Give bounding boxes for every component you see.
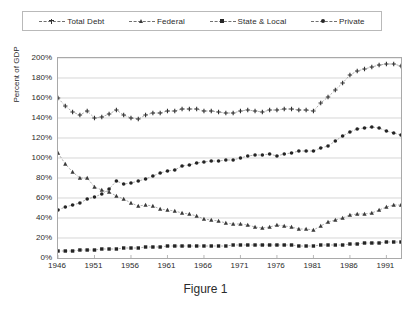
- square-marker: [297, 244, 300, 247]
- triangle-marker: [122, 197, 126, 201]
- circle-marker: [246, 154, 250, 158]
- square-marker: [341, 243, 344, 246]
- square-marker: [64, 249, 67, 252]
- triangle-marker: [275, 223, 279, 227]
- cross-marker: [253, 109, 257, 113]
- series-line: [58, 127, 401, 210]
- chart-plot-area: [57, 57, 402, 259]
- triangle-marker: [58, 151, 60, 155]
- cross-marker: [107, 112, 111, 116]
- circle-marker: [355, 127, 359, 131]
- cross-marker: [267, 108, 271, 112]
- circle-marker: [195, 161, 199, 165]
- cross-marker: [194, 107, 198, 111]
- square-marker: [58, 249, 60, 252]
- square-marker: [261, 243, 264, 246]
- series-total-debt: [58, 62, 401, 121]
- triangle-marker: [377, 208, 381, 212]
- cross-marker: [289, 107, 293, 111]
- x-axis-tick-label: 1956: [121, 261, 139, 270]
- circle-marker: [93, 195, 97, 199]
- square-marker: [202, 244, 205, 247]
- circle-marker: [399, 133, 401, 137]
- square-marker: [326, 243, 329, 246]
- square-marker: [283, 243, 286, 246]
- triangle-marker: [370, 211, 374, 215]
- y-axis-tick-label: 80%: [4, 173, 52, 182]
- cross-marker: [246, 108, 250, 112]
- series-federal: [58, 151, 401, 232]
- cross-marker: [355, 69, 359, 73]
- square-marker: [253, 243, 256, 246]
- circle-marker: [326, 144, 330, 148]
- square-marker: [377, 241, 380, 244]
- cross-marker: [370, 65, 374, 69]
- square-marker: [188, 244, 191, 247]
- y-axis-tick-label: 20%: [4, 233, 52, 242]
- square-marker: [399, 240, 401, 243]
- y-axis-tick-label: 60%: [4, 193, 52, 202]
- square-marker: [115, 247, 118, 250]
- cross-marker: [70, 110, 74, 114]
- circle-marker: [297, 149, 301, 153]
- legend-label: Private: [339, 17, 365, 26]
- triangle-marker: [209, 218, 213, 222]
- square-marker: [144, 245, 147, 248]
- x-axis-tick-label: 1991: [376, 261, 394, 270]
- x-axis-tick-label: 1961: [158, 261, 176, 270]
- circle-marker: [377, 126, 381, 130]
- cross-marker: [165, 109, 169, 113]
- y-axis-tick-label: 180%: [4, 73, 52, 82]
- cross-marker: [92, 116, 96, 120]
- cross-marker: [143, 113, 147, 117]
- circle-marker: [209, 159, 213, 163]
- square-marker: [385, 240, 388, 243]
- circle-marker: [275, 154, 279, 158]
- cross-marker: [362, 67, 366, 71]
- square-marker: [392, 240, 395, 243]
- circle-marker: [385, 129, 389, 133]
- triangle-marker: [165, 208, 169, 212]
- square-marker: [239, 243, 242, 246]
- square-marker: [85, 248, 88, 251]
- square-marker: [356, 242, 359, 245]
- circle-marker: [370, 125, 374, 129]
- cross-marker: [238, 109, 242, 113]
- cross-marker: [202, 109, 206, 113]
- square-marker: [334, 243, 337, 246]
- circle-marker: [392, 131, 396, 135]
- square-marker: [158, 245, 161, 248]
- triangle-marker: [63, 162, 67, 166]
- x-axis-tick-label: 1946: [48, 261, 66, 270]
- square-marker: [348, 242, 351, 245]
- circle-marker: [239, 156, 243, 160]
- square-marker: [246, 243, 249, 246]
- circle-marker: [261, 153, 265, 157]
- square-marker: [363, 241, 366, 244]
- x-axis-tick-label: 1966: [194, 261, 212, 270]
- square-marker: [166, 244, 169, 247]
- circle-marker: [341, 134, 345, 138]
- circle-marker: [334, 139, 338, 143]
- legend-item-total-debt: Total Debt: [39, 17, 104, 26]
- square-marker: [71, 249, 74, 252]
- cross-marker: [282, 107, 286, 111]
- triangle-marker: [151, 204, 155, 208]
- cross-marker: [224, 111, 228, 115]
- circle-marker: [158, 171, 162, 175]
- circle-marker: [85, 197, 89, 201]
- circle-marker: [173, 168, 177, 172]
- cross-marker: [209, 109, 213, 113]
- square-marker: [217, 244, 220, 247]
- square-marker: [224, 244, 227, 247]
- triangle-marker: [70, 170, 74, 174]
- cross-marker: [384, 62, 388, 66]
- x-axis-tick-label: 1971: [231, 261, 249, 270]
- x-axis-tick-label: 1986: [340, 261, 358, 270]
- square-marker: [173, 244, 176, 247]
- triangle-marker: [173, 209, 177, 213]
- y-axis-tick-label: 120%: [4, 133, 52, 142]
- legend-label: Total Debt: [67, 17, 104, 26]
- circle-marker: [319, 146, 323, 150]
- cross-marker: [187, 107, 191, 111]
